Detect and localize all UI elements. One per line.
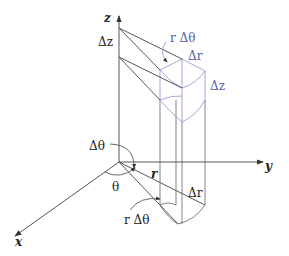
r-dtheta-top-label: r Δθ	[170, 31, 195, 45]
volume-element-top	[160, 59, 205, 122]
dr-top-label: Δr	[188, 49, 203, 63]
r-dtheta-bottom-label: r Δθ	[124, 213, 149, 227]
y-axis-label: y	[264, 159, 273, 173]
r-dtheta-top-arc	[162, 42, 167, 62]
dtheta-label: Δθ	[89, 139, 105, 153]
z-axis-label: z	[103, 11, 112, 25]
x-axis-label: x	[14, 235, 23, 249]
cylindrical-volume-diagram: z y x Δz r Δθ Δr Δz Δθ θ r Δr r Δθ	[0, 0, 289, 256]
r-label: r	[151, 167, 159, 181]
dz-block-label: Δz	[210, 79, 225, 93]
dz-axis-label: Δz	[98, 35, 113, 49]
theta-label: θ	[112, 180, 119, 194]
dr-bottom-label: Δr	[188, 186, 203, 200]
dtheta-arc	[110, 144, 134, 168]
x-axis	[15, 162, 119, 236]
